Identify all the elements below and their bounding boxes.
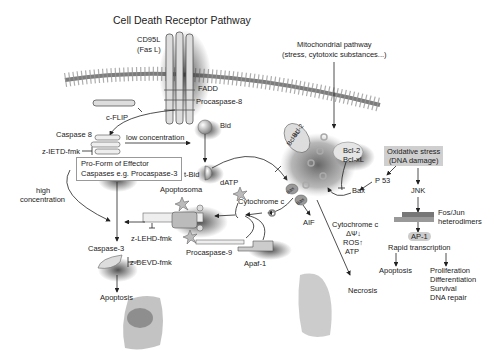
outcome-dna-repair: DNA repair bbox=[430, 293, 467, 302]
apoptosoma-label: Apoptosoma bbox=[160, 185, 202, 194]
caspase8-label: Caspase 8 bbox=[56, 130, 92, 139]
bid-sphere bbox=[198, 120, 212, 134]
proform-line2: Caspases e.g. Procaspase-3 bbox=[81, 169, 177, 179]
tbid-label: t-Bid bbox=[184, 170, 199, 179]
jnk-label: JNK bbox=[411, 186, 425, 195]
caspase8-shape bbox=[91, 135, 120, 154]
fosjun-label: Fos/Jun bbox=[438, 208, 465, 217]
oxidative-line2: (DNA damage) bbox=[387, 156, 440, 165]
atp-label: ATP bbox=[345, 247, 359, 256]
z-ietd-fmk-label: z-IETD-fmk bbox=[42, 147, 80, 156]
necrosis-label: Necrosis bbox=[348, 286, 377, 295]
low-concentration-label: low concentration bbox=[126, 133, 184, 142]
outcome-differentiation: Differentiation bbox=[430, 275, 476, 284]
ros-label: ROS↑ bbox=[343, 238, 363, 247]
diagram-title: Cell Death Receptor Pathway bbox=[113, 14, 251, 26]
bcl2-label: Bcl-2 bbox=[343, 146, 360, 155]
fasl-label: (Fas L) bbox=[137, 45, 161, 54]
procaspase9-shape bbox=[196, 240, 244, 244]
bax-label: Bax bbox=[352, 186, 365, 195]
cytochrome-c-label: Cytochrome c bbox=[238, 197, 284, 206]
proform-effector-box: Pro-Form of Effector Caspases e.g. Proca… bbox=[76, 157, 182, 181]
oxidative-stress-box: Oxidative stress (DNA damage) bbox=[384, 146, 443, 166]
apoptosis-left-label: Apoptosis bbox=[100, 293, 133, 302]
concentration-label: concentration bbox=[20, 195, 65, 204]
p53-label: P 53 bbox=[375, 176, 390, 185]
apaf1-label: Apaf-1 bbox=[244, 259, 266, 268]
aif-label: AIF bbox=[303, 218, 315, 227]
proform-line1: Pro-Form of Effector bbox=[81, 159, 177, 169]
high-label: high bbox=[36, 186, 50, 195]
procaspase8-label: Procaspase-8 bbox=[196, 97, 242, 106]
ap1-label: AP-1 bbox=[408, 232, 431, 241]
outcome-proliferation: Proliferation bbox=[430, 266, 470, 275]
cflip-label: c-FLIP bbox=[106, 113, 128, 122]
necrotic-cell-image bbox=[298, 274, 331, 337]
mito-pathway-sub-label: (stress, cytotoxic substances...) bbox=[282, 50, 387, 59]
caspase3-label: Caspase-3 bbox=[88, 244, 124, 253]
mito-pathway-label: Mitochondrial pathway bbox=[297, 40, 372, 49]
cd95-receptor bbox=[159, 30, 211, 124]
fadd-label: FADD bbox=[198, 84, 218, 93]
fos-jun-shape bbox=[394, 212, 434, 222]
pathway-graphics bbox=[0, 0, 500, 361]
oxidative-line1: Oxidative stress bbox=[387, 147, 440, 156]
cytochrome-c-necrosis-label: Cytochrome c bbox=[332, 220, 378, 229]
heterodimers-label: heterodimers bbox=[438, 217, 482, 226]
z-lehd-fmk-label: z-LEHD-fmk bbox=[131, 234, 172, 243]
outcome-survival: Survival bbox=[430, 284, 457, 293]
rapid-transcription-label: Rapid transcription bbox=[388, 243, 451, 252]
bid-label: Bid bbox=[220, 121, 231, 130]
bclxl-label: Bcl-xL bbox=[343, 155, 364, 164]
apoptosis-right-label: Apoptosis bbox=[379, 266, 412, 275]
datp-label: dATP bbox=[220, 178, 238, 187]
cd95l-label: CD95L bbox=[137, 35, 160, 44]
cflip-shape bbox=[93, 100, 135, 106]
procaspase9-label: Procaspase-9 bbox=[186, 248, 232, 257]
z-devd-fmk-label: z-DEVD-fmk bbox=[130, 258, 172, 267]
delta-psi-label: ΔΨ↓ bbox=[346, 229, 361, 238]
